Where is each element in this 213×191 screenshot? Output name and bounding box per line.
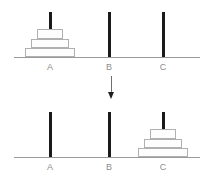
peg-rod-b-top [108, 12, 111, 57]
arrow-head [108, 92, 114, 99]
panel-initial-state: A B C [0, 0, 213, 80]
peg-c-top [161, 12, 166, 57]
peg-label-c-bottom: C [151, 162, 175, 172]
peg-label-b-top: B [97, 62, 121, 72]
peg-label-a-bottom: A [38, 162, 62, 172]
disc-medium-c-bottom [144, 139, 182, 148]
panel-final-state: A B C [0, 100, 213, 180]
peg-a-bottom [48, 112, 53, 157]
peg-rod-b-bottom [108, 112, 111, 157]
downward-arrow-icon [107, 76, 116, 100]
ground-line-bottom [14, 157, 200, 158]
disc-large-a-top [25, 48, 75, 57]
peg-rod-a-bottom [49, 112, 52, 157]
peg-rod-c-top [162, 12, 165, 57]
ground-line-top [14, 57, 200, 58]
disc-small-a-top [37, 29, 63, 39]
peg-label-b-bottom: B [97, 162, 121, 172]
peg-b-top [107, 12, 112, 57]
tower-of-hanoi-diagram: A B C A B C [0, 0, 213, 191]
disc-small-c-bottom [150, 129, 176, 139]
peg-b-bottom [107, 112, 112, 157]
peg-label-a-top: A [38, 62, 62, 72]
disc-large-c-bottom [138, 148, 188, 157]
disc-medium-a-top [31, 39, 69, 48]
peg-label-c-top: C [151, 62, 175, 72]
